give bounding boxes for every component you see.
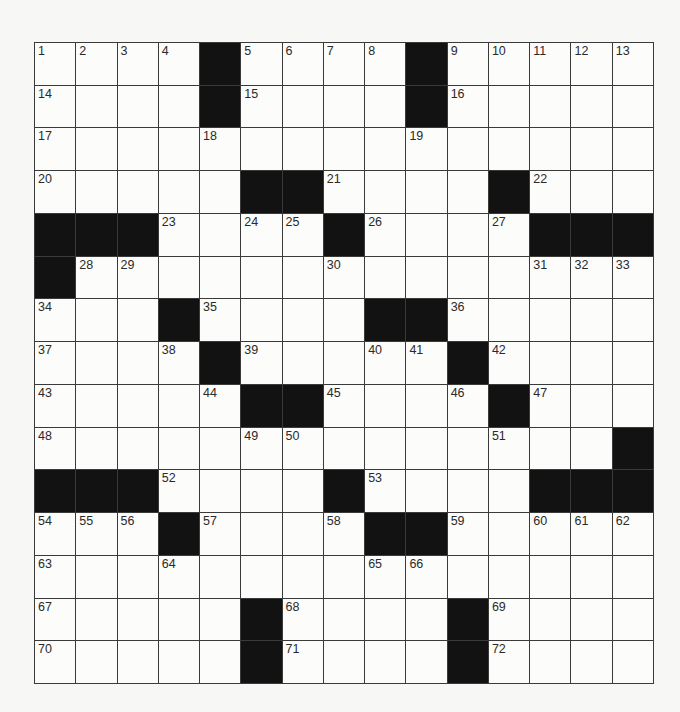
grid-cell-r1c12[interactable] xyxy=(530,86,571,129)
grid-cell-r4c8[interactable]: 26 xyxy=(365,214,406,257)
grid-cell-r12c1[interactable] xyxy=(76,556,117,599)
grid-cell-r2c0[interactable]: 17 xyxy=(35,128,76,171)
grid-cell-r14c11[interactable]: 72 xyxy=(489,641,530,684)
grid-cell-r2c3[interactable] xyxy=(159,128,200,171)
grid-cell-r9c12[interactable] xyxy=(530,428,571,471)
grid-cell-r14c7[interactable] xyxy=(324,641,365,684)
grid-cell-r5c13[interactable]: 32 xyxy=(571,257,612,300)
grid-cell-r7c8[interactable]: 40 xyxy=(365,342,406,385)
grid-cell-r14c6[interactable]: 71 xyxy=(283,641,324,684)
grid-cell-r8c14[interactable] xyxy=(613,385,654,428)
grid-cell-r0c0[interactable]: 1 xyxy=(35,43,76,86)
grid-cell-r12c6[interactable] xyxy=(283,556,324,599)
grid-cell-r1c8[interactable] xyxy=(365,86,406,129)
grid-cell-r14c4[interactable] xyxy=(200,641,241,684)
grid-cell-r7c0[interactable]: 37 xyxy=(35,342,76,385)
grid-cell-r6c13[interactable] xyxy=(571,299,612,342)
grid-cell-r11c5[interactable] xyxy=(241,513,282,556)
grid-cell-r14c2[interactable] xyxy=(118,641,159,684)
grid-cell-r9c5[interactable]: 49 xyxy=(241,428,282,471)
grid-cell-r7c7[interactable] xyxy=(324,342,365,385)
grid-cell-r13c8[interactable] xyxy=(365,599,406,642)
grid-cell-r5c11[interactable] xyxy=(489,257,530,300)
grid-cell-r2c4[interactable]: 18 xyxy=(200,128,241,171)
grid-cell-r13c4[interactable] xyxy=(200,599,241,642)
grid-cell-r8c1[interactable] xyxy=(76,385,117,428)
grid-cell-r12c4[interactable] xyxy=(200,556,241,599)
grid-cell-r6c12[interactable] xyxy=(530,299,571,342)
grid-cell-r5c2[interactable]: 29 xyxy=(118,257,159,300)
grid-cell-r11c12[interactable]: 60 xyxy=(530,513,571,556)
grid-cell-r1c6[interactable] xyxy=(283,86,324,129)
grid-cell-r1c3[interactable] xyxy=(159,86,200,129)
grid-cell-r6c7[interactable] xyxy=(324,299,365,342)
grid-cell-r1c14[interactable] xyxy=(613,86,654,129)
grid-cell-r1c2[interactable] xyxy=(118,86,159,129)
grid-cell-r1c10[interactable]: 16 xyxy=(448,86,489,129)
grid-cell-r2c13[interactable] xyxy=(571,128,612,171)
grid-cell-r5c4[interactable] xyxy=(200,257,241,300)
grid-cell-r6c2[interactable] xyxy=(118,299,159,342)
grid-cell-r12c0[interactable]: 63 xyxy=(35,556,76,599)
grid-cell-r6c10[interactable]: 36 xyxy=(448,299,489,342)
grid-cell-r7c12[interactable] xyxy=(530,342,571,385)
grid-cell-r12c11[interactable] xyxy=(489,556,530,599)
grid-cell-r13c6[interactable]: 68 xyxy=(283,599,324,642)
grid-cell-r4c11[interactable]: 27 xyxy=(489,214,530,257)
grid-cell-r3c9[interactable] xyxy=(406,171,447,214)
grid-cell-r1c7[interactable] xyxy=(324,86,365,129)
grid-cell-r0c13[interactable]: 12 xyxy=(571,43,612,86)
grid-cell-r12c3[interactable]: 64 xyxy=(159,556,200,599)
grid-cell-r12c10[interactable] xyxy=(448,556,489,599)
grid-cell-r13c7[interactable] xyxy=(324,599,365,642)
grid-cell-r11c13[interactable]: 61 xyxy=(571,513,612,556)
grid-cell-r14c8[interactable] xyxy=(365,641,406,684)
grid-cell-r8c7[interactable]: 45 xyxy=(324,385,365,428)
grid-cell-r2c10[interactable] xyxy=(448,128,489,171)
grid-cell-r12c14[interactable] xyxy=(613,556,654,599)
grid-cell-r2c11[interactable] xyxy=(489,128,530,171)
grid-cell-r9c1[interactable] xyxy=(76,428,117,471)
grid-cell-r5c9[interactable] xyxy=(406,257,447,300)
grid-cell-r10c3[interactable]: 52 xyxy=(159,470,200,513)
grid-cell-r13c11[interactable]: 69 xyxy=(489,599,530,642)
grid-cell-r12c5[interactable] xyxy=(241,556,282,599)
grid-cell-r11c4[interactable]: 57 xyxy=(200,513,241,556)
grid-cell-r0c2[interactable]: 3 xyxy=(118,43,159,86)
grid-cell-r3c14[interactable] xyxy=(613,171,654,214)
grid-cell-r12c2[interactable] xyxy=(118,556,159,599)
grid-cell-r2c7[interactable] xyxy=(324,128,365,171)
grid-cell-r0c7[interactable]: 7 xyxy=(324,43,365,86)
grid-cell-r4c4[interactable] xyxy=(200,214,241,257)
grid-cell-r8c4[interactable]: 44 xyxy=(200,385,241,428)
grid-cell-r3c12[interactable]: 22 xyxy=(530,171,571,214)
grid-cell-r2c1[interactable] xyxy=(76,128,117,171)
grid-cell-r9c8[interactable] xyxy=(365,428,406,471)
grid-cell-r3c1[interactable] xyxy=(76,171,117,214)
grid-cell-r14c14[interactable] xyxy=(613,641,654,684)
grid-cell-r5c7[interactable]: 30 xyxy=(324,257,365,300)
grid-cell-r2c2[interactable] xyxy=(118,128,159,171)
grid-cell-r1c1[interactable] xyxy=(76,86,117,129)
grid-cell-r10c4[interactable] xyxy=(200,470,241,513)
grid-cell-r0c8[interactable]: 8 xyxy=(365,43,406,86)
grid-cell-r7c3[interactable]: 38 xyxy=(159,342,200,385)
grid-cell-r11c14[interactable]: 62 xyxy=(613,513,654,556)
grid-cell-r4c9[interactable] xyxy=(406,214,447,257)
grid-cell-r13c12[interactable] xyxy=(530,599,571,642)
grid-cell-r9c2[interactable] xyxy=(118,428,159,471)
grid-cell-r5c8[interactable] xyxy=(365,257,406,300)
grid-cell-r0c3[interactable]: 4 xyxy=(159,43,200,86)
grid-cell-r2c14[interactable] xyxy=(613,128,654,171)
grid-cell-r1c11[interactable] xyxy=(489,86,530,129)
grid-cell-r7c14[interactable] xyxy=(613,342,654,385)
grid-cell-r5c5[interactable] xyxy=(241,257,282,300)
grid-cell-r2c12[interactable] xyxy=(530,128,571,171)
grid-cell-r2c8[interactable] xyxy=(365,128,406,171)
grid-cell-r9c7[interactable] xyxy=(324,428,365,471)
grid-cell-r10c5[interactable] xyxy=(241,470,282,513)
grid-cell-r8c12[interactable]: 47 xyxy=(530,385,571,428)
grid-cell-r7c2[interactable] xyxy=(118,342,159,385)
grid-cell-r14c3[interactable] xyxy=(159,641,200,684)
grid-cell-r12c8[interactable]: 65 xyxy=(365,556,406,599)
